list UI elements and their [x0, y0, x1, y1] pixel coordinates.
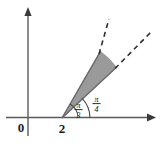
shaded-sector [62, 51, 117, 118]
pi-over-3-denominator: 3 [76, 111, 81, 120]
pi-over-3-numerator: π [76, 101, 81, 110]
lower-ray-dashed [115, 31, 152, 69]
x-axis-arrow-icon [147, 114, 156, 122]
pi-over-4-denominator: 4 [95, 105, 99, 114]
origin-label: 0 [18, 120, 25, 135]
angle-arc-pi-over-4 [82, 98, 90, 118]
y-axis [24, 7, 31, 136]
y-axis-arrow-icon [24, 7, 31, 16]
figure-canvas: π 3 π 4 0 2 [0, 0, 162, 144]
x-tick-label-2: 2 [59, 121, 66, 136]
upper-ray-dashed [99, 19, 109, 54]
polar-sector-figure: π 3 π 4 0 2 [0, 0, 162, 144]
angle-label-pi-over-3: π 3 [75, 101, 83, 120]
angle-label-pi-over-4: π 4 [93, 95, 101, 114]
pi-over-4-numerator: π [94, 95, 99, 104]
sector-region [62, 51, 117, 118]
